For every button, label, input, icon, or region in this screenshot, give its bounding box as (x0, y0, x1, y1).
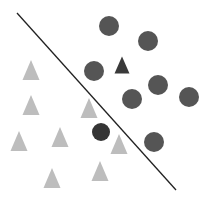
circle-point-icon (144, 132, 164, 152)
triangle-point-icon (23, 95, 40, 115)
decision-boundary-diagram (0, 0, 212, 199)
circle-point-icon (138, 31, 158, 51)
diagram-canvas (0, 0, 212, 199)
triangle-point-icon (92, 161, 109, 181)
circle-point-icon (179, 87, 199, 107)
triangle-point-icon (81, 98, 98, 118)
triangle-point-icon (11, 131, 28, 151)
triangle-point-icon (23, 60, 40, 80)
triangle-point-icon (44, 168, 61, 188)
misclassified-triangle-point-icon (115, 57, 130, 74)
circle-point-icon (99, 16, 119, 36)
triangle-point-icon (52, 127, 69, 147)
circle-point-icon (84, 61, 104, 81)
data-points-layer (11, 16, 200, 188)
misclassified-circle-point-icon (92, 123, 110, 141)
circle-point-icon (122, 89, 142, 109)
circle-point-icon (148, 75, 168, 95)
triangle-point-icon (111, 134, 128, 154)
